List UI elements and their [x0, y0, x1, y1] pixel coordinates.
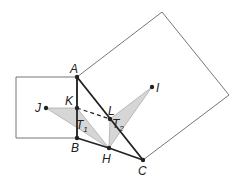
label-b: B	[71, 141, 79, 155]
point-c	[141, 158, 145, 162]
label-l: L	[108, 104, 115, 118]
point-i	[150, 85, 154, 89]
point-j	[44, 106, 48, 110]
label-k: K	[65, 94, 74, 108]
point-b	[75, 136, 79, 140]
label-c: C	[138, 164, 147, 178]
point-k	[75, 106, 79, 110]
label-t2-sub: 2	[118, 124, 124, 133]
label-a: A	[69, 62, 78, 76]
label-i: I	[156, 81, 160, 95]
label-j: J	[34, 101, 42, 115]
label-h: H	[102, 152, 111, 166]
point-h	[107, 146, 111, 150]
geometry-diagram: A B C H I J K L T1 T2	[0, 0, 238, 186]
label-t1-sub: 1	[83, 125, 87, 134]
